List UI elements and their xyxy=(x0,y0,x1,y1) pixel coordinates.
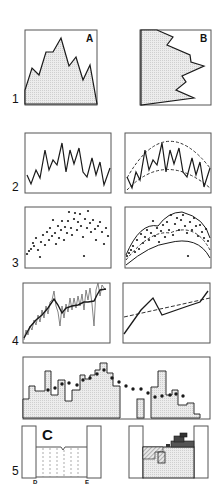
panel-3-left xyxy=(25,207,111,268)
panel-5c xyxy=(22,426,101,478)
row-label-4: 4 xyxy=(12,334,19,348)
panel-letter-c: C xyxy=(42,426,53,443)
row-label-5: 5 xyxy=(12,464,19,478)
axis-letter-d: D xyxy=(33,479,37,485)
figure-canvas xyxy=(0,0,223,498)
row-label-3: 3 xyxy=(12,256,19,270)
panel-2-left xyxy=(25,133,111,193)
panel-4-right xyxy=(123,283,210,343)
panel-5-histogram xyxy=(23,357,210,419)
row-label-1: 1 xyxy=(12,92,19,106)
axis-letter-e: E xyxy=(85,479,89,485)
panel-2-right xyxy=(125,133,211,193)
panel-3-right xyxy=(125,207,211,268)
row-label-2: 2 xyxy=(12,180,19,194)
panel-letter-a: A xyxy=(86,33,93,44)
panel-letter-b: B xyxy=(200,33,207,44)
panel-5-deposit xyxy=(129,426,208,478)
panel-4-left xyxy=(23,283,110,343)
